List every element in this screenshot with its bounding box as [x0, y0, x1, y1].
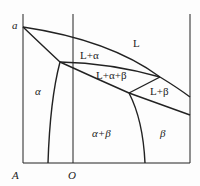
region-label-alpha: α [35, 86, 41, 97]
region-label-L-beta: L+β [150, 86, 169, 97]
alpha-solvus [48, 62, 60, 163]
region-label-L: L [133, 38, 140, 49]
region-label-L-alpha: L+α [80, 50, 99, 61]
phase-diagram-lines [0, 0, 200, 186]
region-label-beta: β [160, 128, 165, 139]
label-O: O [68, 170, 76, 181]
label-a: a [12, 20, 18, 31]
beta-solvus [129, 93, 145, 163]
phase-diagram: a L L+α L+α+β L+β α α+β β A O [0, 0, 200, 186]
region-label-alpha-beta: α+β [92, 128, 111, 139]
region-label-L-alpha-beta: L+α+β [96, 70, 127, 81]
label-A: A [12, 170, 19, 181]
